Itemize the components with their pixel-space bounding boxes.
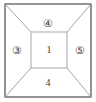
region-label-top: ④ [43,18,53,29]
region-label-center: 1 [47,45,52,55]
diagonal-top-right [67,4,91,32]
region-label-bottom: 4 [46,78,51,88]
region-label-left: ③ [12,45,22,56]
region-diagram: ④ ③ 1 ⑤ 4 [0,0,96,102]
diagonal-bottom-left [5,68,31,97]
diagonal-bottom-right [67,68,91,97]
diagonal-top-left [5,4,31,32]
region-label-right: ⑤ [75,45,85,56]
